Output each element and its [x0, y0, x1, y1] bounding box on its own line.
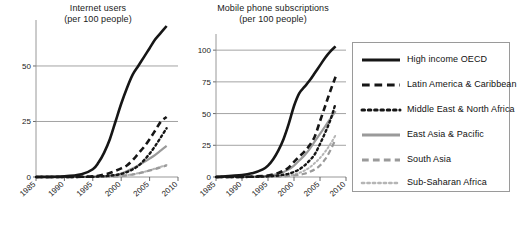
- x-axis-tick-label: 1990: [46, 179, 66, 198]
- legend-label: Sub-Saharan Africa: [407, 177, 487, 188]
- x-axis-tick-label: 2005: [302, 179, 322, 198]
- chart-panel-internet-users: Internet users (per 100 people) 02550198…: [0, 0, 190, 240]
- x-axis-tick-label: 2000: [103, 179, 123, 198]
- legend-swatch-solid-black-icon: [361, 54, 401, 66]
- legend-swatch-solid-gray-icon: [361, 129, 401, 141]
- x-axis-tick-label: 1985: [198, 179, 218, 198]
- legend-swatch-dotted-gray-icon: [361, 177, 401, 189]
- y-axis-tick-label: 50: [202, 110, 211, 119]
- y-axis-tick-label: 50: [22, 62, 31, 71]
- legend-item-middle-east-north-africa[interactable]: Middle East & North Africa: [353, 97, 509, 122]
- series-line: [36, 117, 167, 177]
- chart-legend: High income OECD Latin America & Caribbe…: [352, 42, 510, 192]
- legend-item-east-asia-pacific[interactable]: East Asia & Pacific: [353, 122, 509, 147]
- series-line: [216, 139, 336, 177]
- legend-item-latin-america-caribbean[interactable]: Latin America & Caribbean: [353, 72, 509, 97]
- legend-label: South Asia: [407, 154, 451, 165]
- x-axis-tick-label: 1995: [250, 179, 270, 198]
- y-axis-tick-label: 75: [202, 78, 211, 87]
- legend-swatch-dashed-black-icon: [361, 79, 401, 91]
- y-axis-tick-label: 25: [22, 117, 31, 126]
- plot-area-internet-users: 02550198519901995200020052010: [0, 0, 190, 240]
- x-axis-tick-label: 2000: [276, 179, 296, 198]
- y-axis-tick-label: 100: [198, 46, 212, 55]
- series-line: [216, 46, 336, 177]
- legend-item-high-income-oecd[interactable]: High income OECD: [353, 47, 509, 72]
- series-line: [36, 26, 167, 177]
- x-axis-tick-label: 2005: [132, 179, 152, 198]
- x-axis-tick-label: 2010: [160, 179, 180, 198]
- x-axis-tick-label: 1990: [224, 179, 244, 198]
- legend-label: High income OECD: [407, 54, 487, 65]
- legend-label: Middle East & North Africa: [407, 104, 515, 115]
- legend-item-south-asia[interactable]: South Asia: [353, 147, 509, 172]
- legend-swatch-dotted-black-icon: [361, 104, 401, 116]
- x-axis-tick-label: 1995: [75, 179, 95, 198]
- x-axis-tick-label: 1985: [18, 179, 38, 198]
- legend-item-sub-saharan-africa[interactable]: Sub-Saharan Africa: [353, 170, 509, 195]
- x-axis-tick-label: 2010: [328, 179, 348, 198]
- legend-swatch-dashed-gray-icon: [361, 154, 401, 166]
- legend-label: East Asia & Pacific: [407, 129, 484, 140]
- y-axis-tick-label: 25: [202, 141, 211, 150]
- plot-area-mobile-subscriptions: 0255075100198519901995200020052010: [186, 0, 356, 240]
- chart-panel-mobile-subscriptions: Mobile phone subscriptions (per 100 peop…: [186, 0, 356, 240]
- series-line: [216, 77, 336, 177]
- series-line: [216, 103, 336, 177]
- legend-label: Latin America & Caribbean: [407, 79, 517, 90]
- series-line: [36, 146, 167, 177]
- series-line: [36, 128, 167, 177]
